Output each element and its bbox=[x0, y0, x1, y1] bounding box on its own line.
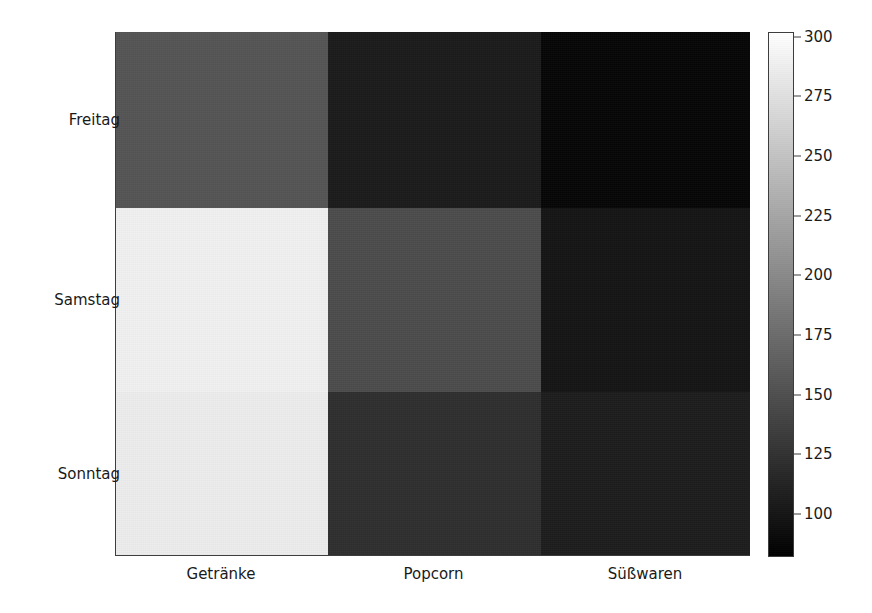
colorbar-tick-text: 275 bbox=[804, 89, 833, 104]
heatmap-cell bbox=[541, 208, 750, 392]
x-axis-tick-label: Popcorn bbox=[403, 565, 463, 583]
colorbar-tick-text: 150 bbox=[804, 387, 833, 402]
colorbar-tick: 100 bbox=[794, 514, 833, 515]
colorbar-tick-text: 125 bbox=[804, 447, 833, 462]
colorbar-tick-mark bbox=[794, 275, 801, 276]
colorbar: 300275250225200175150125100 bbox=[768, 32, 794, 557]
heatmap-figure: FreitagSamstagSonntag GetränkePopcornSüß… bbox=[0, 0, 872, 613]
colorbar-tick: 125 bbox=[794, 454, 833, 455]
colorbar-tick-text: 250 bbox=[804, 149, 833, 164]
y-axis-tick-label: Samstag bbox=[54, 291, 120, 309]
colorbar-tick: 250 bbox=[794, 156, 833, 157]
heatmap-cell bbox=[116, 392, 328, 556]
colorbar-tick: 150 bbox=[794, 394, 833, 395]
heatmap-plot-area bbox=[115, 32, 750, 556]
heatmap-cell bbox=[541, 32, 750, 208]
colorbar-tick: 200 bbox=[794, 275, 833, 276]
heatmap-cell bbox=[328, 392, 541, 556]
colorbar-tick: 175 bbox=[794, 335, 833, 336]
colorbar-tick-text: 175 bbox=[804, 328, 833, 343]
colorbar-tick-text: 225 bbox=[804, 208, 833, 223]
colorbar-tick-text: 100 bbox=[804, 507, 833, 522]
colorbar-tick-text: 200 bbox=[804, 268, 833, 283]
colorbar-tick-mark bbox=[794, 514, 801, 515]
colorbar-tick-mark bbox=[794, 156, 801, 157]
colorbar-tick: 300 bbox=[794, 36, 833, 37]
heatmap-cell bbox=[328, 208, 541, 392]
colorbar-tick-mark bbox=[794, 36, 801, 37]
colorbar-tick-mark bbox=[794, 215, 801, 216]
colorbar-tick-text: 300 bbox=[804, 29, 833, 44]
y-axis-tick-label: Sonntag bbox=[58, 465, 120, 483]
x-axis-tick-label: Getränke bbox=[187, 565, 256, 583]
colorbar-tick-mark bbox=[794, 96, 801, 97]
heatmap-cell bbox=[116, 208, 328, 392]
colorbar-tick: 275 bbox=[794, 96, 833, 97]
colorbar-tick: 225 bbox=[794, 215, 833, 216]
y-axis-tick-label: Freitag bbox=[69, 111, 120, 129]
x-axis-tick-label: Süßwaren bbox=[608, 565, 683, 583]
heatmap-cell bbox=[541, 392, 750, 556]
colorbar-tick-mark bbox=[794, 335, 801, 336]
heatmap-cell bbox=[116, 32, 328, 208]
colorbar-tick-mark bbox=[794, 394, 801, 395]
colorbar-gradient bbox=[768, 32, 794, 557]
colorbar-tick-mark bbox=[794, 454, 801, 455]
heatmap-cell bbox=[328, 32, 541, 208]
